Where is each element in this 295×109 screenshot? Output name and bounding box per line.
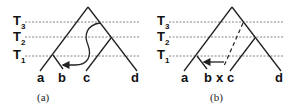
time-label-t1: T (157, 47, 165, 62)
branch-root-d (88, 7, 137, 71)
leaf-c: c (227, 70, 234, 85)
time-label-t1-sub: 1 (165, 56, 170, 65)
time-label-t3-sub: 3 (165, 22, 170, 31)
phylogeny-transfer-figure: T 3 T 2 T 1 a b c d (a) T 3 T 2 T 1 (0, 0, 295, 109)
time-label-t2-sub: 2 (165, 38, 170, 47)
ghost-lineage-x (224, 23, 243, 66)
time-label-t3: T (13, 13, 21, 28)
leaf-d: d (131, 70, 139, 85)
branch-root-d (232, 7, 281, 71)
leaf-a: a (181, 70, 189, 85)
leaf-x: x (216, 70, 224, 85)
time-label-t2-sub: 2 (21, 38, 26, 47)
panel-b: T 3 T 2 T 1 a b x c d (b) (157, 7, 283, 104)
time-label-t1-sub: 1 (21, 56, 26, 65)
branch-b (53, 55, 63, 69)
panel-a: T 3 T 2 T 1 a b c d (a) (13, 7, 139, 104)
leaf-c: c (83, 70, 90, 85)
caption-b: (b) (210, 91, 223, 104)
branch-root-a (40, 7, 88, 71)
leaf-b: b (58, 70, 66, 85)
time-label-t3-sub: 3 (21, 22, 26, 31)
time-label-t2: T (13, 29, 21, 44)
time-label-t2: T (157, 29, 165, 44)
leaf-a: a (37, 70, 45, 85)
leaf-b: b (204, 70, 212, 85)
time-label-t1: T (13, 47, 21, 62)
time-label-t3: T (157, 13, 165, 28)
transfer-arrow (63, 23, 100, 65)
leaf-d: d (275, 70, 283, 85)
caption-a: (a) (37, 91, 50, 104)
